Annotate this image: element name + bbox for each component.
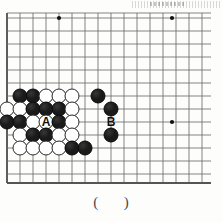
star-point-hoshi — [170, 16, 174, 20]
diagram-caption: ( ) — [0, 194, 222, 211]
black-stone[interactable] — [78, 141, 93, 156]
star-point-hoshi — [170, 120, 174, 124]
black-stone[interactable] — [91, 89, 106, 104]
point-label-b[interactable]: B — [107, 116, 116, 128]
star-point-hoshi — [57, 16, 61, 20]
point-label-a[interactable]: A — [42, 116, 51, 128]
black-stone[interactable] — [104, 128, 119, 143]
diagram-page: AB ( ) — [0, 0, 222, 222]
